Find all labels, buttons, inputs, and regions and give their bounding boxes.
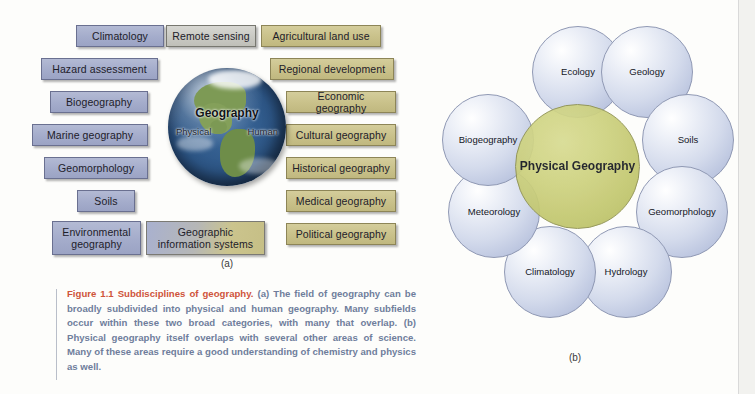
globe-landmass (210, 120, 227, 134)
globe-cloud (239, 158, 279, 175)
petal-label: Meteorology (468, 207, 520, 217)
box-soils: Soils (77, 190, 135, 212)
petal-label: Hydrology (605, 267, 648, 277)
petal-label: Climatology (525, 267, 575, 277)
page-right-rule (738, 0, 739, 394)
globe-graphic: Geography Physical Human (168, 68, 286, 186)
box-historical-geography: Historical geography (286, 157, 396, 179)
box-geomorphology: Geomorphology (44, 157, 148, 179)
box-agricultural-land-use: Agricultural land use (261, 25, 381, 47)
box-remote-sensing: Remote sensing (166, 25, 256, 47)
globe-label-physical: Physical (176, 126, 211, 137)
box-marine-geography: Marine geography (32, 124, 148, 146)
globe-title-geography: Geography (168, 106, 286, 120)
petal-label: Geology (629, 67, 664, 77)
box-economic-geography: Economic geography (286, 91, 396, 113)
box-biogeography: Biogeography (50, 91, 148, 113)
figure-root: Climatology Hazard assessment Biogeograp… (0, 0, 755, 394)
panel-a-label: (a) (168, 258, 286, 269)
figure-caption-block: Figure 1.1 Subdisciplines of geography. … (56, 287, 416, 382)
caption-left-rule (56, 289, 57, 380)
box-political-geography: Political geography (286, 223, 396, 245)
core-label: Physical Geography (520, 159, 635, 173)
box-cultural-geography: Cultural geography (286, 124, 396, 146)
caption-lead-in: Figure 1.1 Subdisciplines of geography. (67, 288, 254, 299)
caption-body-text: (a) The field of geography can be broadl… (67, 288, 416, 372)
box-geographic-information-systems: Geographic information systems (146, 221, 265, 255)
page-gutter (739, 0, 755, 394)
globe-cloud (208, 70, 262, 89)
box-regional-development: Regional development (270, 58, 394, 80)
flower-diagram: Ecology Geology Soils Geomorphology Hydr… (412, 4, 738, 354)
petal-label: Biogeography (459, 135, 518, 145)
box-hazard-assessment: Hazard assessment (41, 58, 158, 80)
globe-cloud (177, 136, 212, 150)
box-climatology: Climatology (76, 25, 164, 47)
petal-label: Ecology (561, 67, 595, 77)
globe-label-human: Human (247, 126, 278, 137)
petal-label: Geomorphology (648, 207, 716, 217)
panel-a-subdisciplines-of-geography: Climatology Hazard assessment Biogeograp… (0, 0, 412, 282)
box-medical-geography: Medical geography (286, 190, 396, 212)
figure-caption: Figure 1.1 Subdisciplines of geography. … (67, 287, 416, 374)
panel-b-label: (b) (412, 352, 738, 363)
panel-b-physical-geography-overlaps: Ecology Geology Soils Geomorphology Hydr… (412, 0, 738, 394)
petal-label: Soils (678, 135, 699, 145)
core-circle-physical-geography: Physical Geography (515, 104, 640, 229)
box-environmental-geography: Environmental geography (52, 221, 141, 255)
